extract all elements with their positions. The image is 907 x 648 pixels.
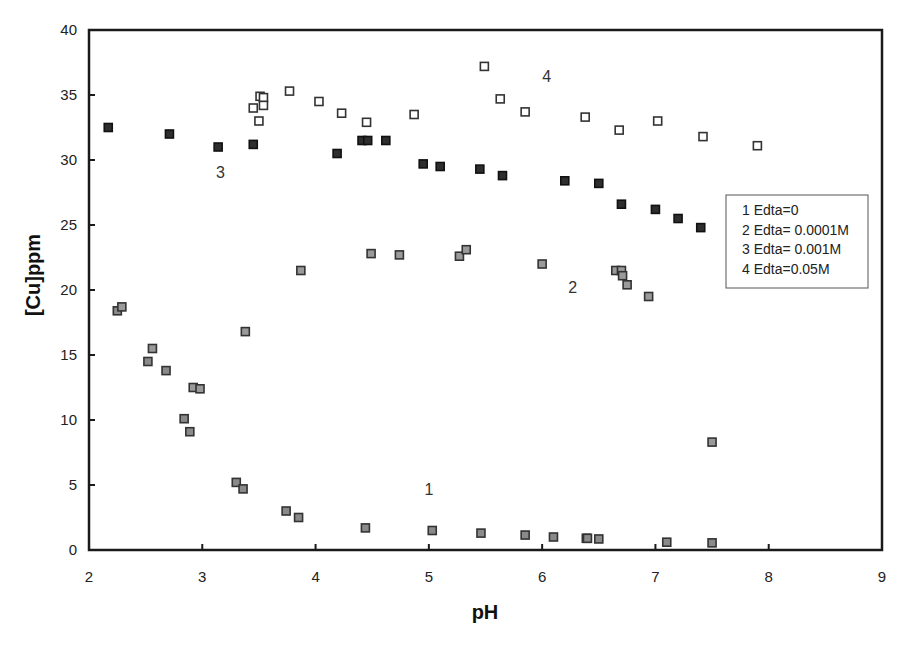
plot-border [89, 30, 882, 550]
data-point-square-marker [699, 133, 707, 141]
data-point-square-marker [663, 538, 671, 546]
x-tick-label: 4 [311, 568, 319, 585]
data-point-square-marker [162, 367, 170, 375]
data-point-square-marker [561, 177, 569, 185]
data-point-square-marker [395, 251, 403, 259]
y-tick-label: 30 [60, 151, 77, 168]
data-point-square-marker [549, 533, 557, 541]
data-point-square-marker [148, 345, 156, 353]
data-point-square-marker [645, 293, 653, 301]
data-point-square-marker [708, 539, 716, 547]
y-tick-label: 35 [60, 86, 77, 103]
data-point-square-marker [538, 260, 546, 268]
y-tick-label: 10 [60, 411, 77, 428]
data-point-square-marker [186, 428, 194, 436]
series-1-curve-label: 1 [424, 481, 433, 498]
y-tick-label: 20 [60, 281, 77, 298]
x-tick-label: 9 [878, 568, 886, 585]
legend-entry-1: 1 Edta=0 [742, 202, 799, 218]
x-tick-label: 6 [538, 568, 546, 585]
data-point-square-marker [259, 94, 267, 102]
data-point-square-marker [144, 358, 152, 366]
data-point-square-marker [367, 250, 375, 258]
series-4-curve-label: 4 [542, 68, 551, 85]
series-2-points [118, 246, 716, 446]
data-point-square-marker [708, 438, 716, 446]
data-point-square-marker [295, 514, 303, 522]
data-point-square-marker [753, 142, 761, 150]
scatter-chart: 0510152025303540 23456789 1234 1 Edta=0 … [0, 0, 907, 648]
data-point-square-marker [521, 531, 529, 539]
data-point-square-marker [496, 95, 504, 103]
y-tick-label: 0 [69, 541, 77, 558]
data-point-square-marker [282, 507, 290, 515]
data-point-square-marker [255, 117, 263, 125]
y-tick-label: 25 [60, 216, 77, 233]
y-axis-title: [Cu]ppm [22, 234, 44, 316]
x-tick-label: 7 [651, 568, 659, 585]
series-1-points [113, 307, 716, 547]
data-point-square-marker [239, 485, 247, 493]
data-point-square-marker [623, 281, 631, 289]
legend-entry-2: 2 Edta= 0.0001M [742, 222, 849, 238]
data-point-square-marker [428, 527, 436, 535]
data-point-square-marker [476, 165, 484, 173]
data-point-square-marker [651, 205, 659, 213]
data-point-square-marker [249, 104, 257, 112]
data-point-square-marker [165, 130, 173, 138]
legend-entry-4: 4 Edta=0.05M [742, 261, 830, 277]
series-4-points [249, 62, 761, 149]
data-point-square-marker [297, 267, 305, 275]
data-point-square-marker [410, 111, 418, 119]
data-point-square-marker [654, 117, 662, 125]
y-tick-label: 5 [69, 476, 77, 493]
x-tick-label: 2 [85, 568, 93, 585]
data-point-square-marker [259, 101, 267, 109]
series-labels: 1234 [216, 68, 577, 498]
data-point-square-marker [674, 215, 682, 223]
data-points [104, 62, 761, 546]
legend-entry-3: 3 Edta= 0.001M [742, 241, 841, 257]
y-tick-label: 40 [60, 21, 77, 38]
data-point-square-marker [619, 272, 627, 280]
series-3-points [104, 124, 704, 232]
data-point-square-marker [241, 328, 249, 336]
data-point-square-marker [498, 172, 506, 180]
data-point-square-marker [521, 108, 529, 116]
data-point-square-marker [436, 163, 444, 171]
x-axis-title: pH [472, 601, 499, 623]
data-point-square-marker [315, 98, 323, 106]
data-point-square-marker [595, 535, 603, 543]
data-point-square-marker [595, 179, 603, 187]
data-point-square-marker [615, 126, 623, 134]
data-point-square-marker [477, 529, 485, 537]
x-tick-label: 8 [765, 568, 773, 585]
data-point-square-marker [617, 200, 625, 208]
data-point-square-marker [286, 87, 294, 95]
plot-frame [89, 30, 882, 550]
data-point-square-marker [583, 534, 591, 542]
series-3-curve-label: 3 [216, 164, 225, 181]
data-point-square-marker [480, 62, 488, 70]
data-point-square-marker [180, 415, 188, 423]
data-point-square-marker [364, 137, 372, 145]
x-tick-label: 3 [198, 568, 206, 585]
data-point-square-marker [697, 224, 705, 232]
data-point-square-marker [196, 385, 204, 393]
data-point-square-marker [382, 137, 390, 145]
data-point-square-marker [333, 150, 341, 158]
data-point-square-marker [118, 303, 126, 311]
y-tick-label: 15 [60, 346, 77, 363]
data-point-square-marker [338, 109, 346, 117]
data-point-square-marker [462, 246, 470, 254]
data-point-square-marker [419, 160, 427, 168]
series-2-curve-label: 2 [568, 279, 577, 296]
data-point-square-marker [249, 140, 257, 148]
data-point-square-marker [361, 524, 369, 532]
legend: 1 Edta=0 2 Edta= 0.0001M 3 Edta= 0.001M … [726, 195, 868, 288]
data-point-square-marker [363, 118, 371, 126]
data-point-square-marker [104, 124, 112, 132]
x-tick-label: 5 [425, 568, 433, 585]
data-point-square-marker [214, 143, 222, 151]
data-point-square-marker [581, 113, 589, 121]
